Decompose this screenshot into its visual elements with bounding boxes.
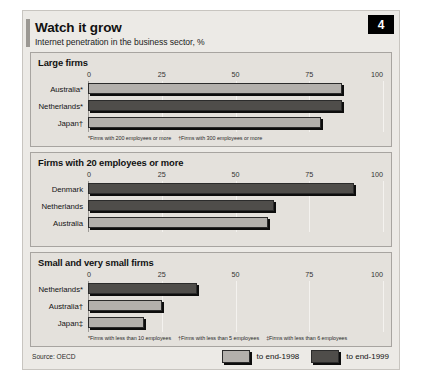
grid-area: Australia*Netherlands*Japan† [88,81,383,132]
bar-track [88,98,383,115]
bar-row: Netherlands* [31,281,383,298]
legend-item: to end-1998 [222,350,300,363]
bar-rows: DenmarkNetherlandsAustralia [88,181,383,232]
bar [88,183,354,194]
legend-swatch [222,350,250,363]
bar [88,200,274,211]
bar-category-label: Denmark [31,185,88,194]
bar-track [88,81,383,98]
figure-number-badge: 4 [368,15,394,34]
grid-area: DenmarkNetherlandsAustralia [88,181,383,232]
axis-tick-label: 100 [371,170,383,179]
chart-footer: Source: OECD to end-1998to end-1999 [23,343,399,369]
axis-tick-label: 25 [158,170,166,179]
x-axis: 0255075100 [88,270,383,281]
source-label: Source: OECD [32,353,76,360]
page-title: Watch it grow [35,20,389,35]
gridline [383,181,384,232]
panel-title: Firms with 20 employees or more [31,153,391,170]
bar [88,217,268,228]
plot-area: 0255075100Netherlands*Australia†Japan‡*F… [31,270,391,346]
bar-row: Netherlands [31,198,383,215]
x-axis: 0255075100 [88,70,383,81]
panel-title: Small and very small firms [31,253,391,270]
grid-area: Netherlands*Australia†Japan‡ [88,281,383,332]
bar-row: Denmark [31,181,383,198]
footnote: *Firms with 200 employees or more [88,135,171,141]
axis-tick-label: 25 [158,270,166,279]
bar-track [88,281,383,298]
bar-category-label: Japan† [31,119,88,128]
axis-tick-label: 75 [305,270,313,279]
chart-panel: Small and very small firms0255075100Neth… [30,252,392,347]
legend-item: to end-1999 [311,350,389,363]
bar [88,300,162,311]
bar [88,83,342,94]
bar-row: Japan† [31,115,383,132]
footnote: *Firms with less than 10 employees [88,335,171,341]
bar-track [88,115,383,132]
axis-tick-label: 100 [371,270,383,279]
gridline [383,81,384,132]
axis-tick-label: 100 [371,70,383,79]
footnote: †Firms with 300 employees or more [178,135,262,141]
panel-footnotes: *Firms with 200 employees or more†Firms … [88,132,383,146]
chart-legend: to end-1998to end-1999 [222,350,389,363]
bar-category-label: Australia† [31,302,88,311]
footnote: ‡Firms with less than 6 employees [266,335,347,341]
chart-header: Watch it grow Internet penetration in th… [23,11,399,52]
legend-swatch [311,350,339,363]
bar-track [88,298,383,315]
bar-category-label: Australia* [31,85,88,94]
axis-tick-label: 75 [305,70,313,79]
chart-figure: Watch it grow Internet penetration in th… [22,10,400,370]
panel-footnotes [88,232,383,246]
bar-row: Japan‡ [31,315,383,332]
bar-row: Australia* [31,81,383,98]
bar-track [88,198,383,215]
panel-title: Large firms [31,53,391,70]
axis-tick-label: 50 [232,270,240,279]
axis-tick-label: 75 [305,170,313,179]
bar-rows: Netherlands*Australia†Japan‡ [88,281,383,332]
bar [88,117,321,128]
bar-category-label: Australia [31,219,88,228]
bar-track [88,181,383,198]
x-axis: 0255075100 [88,170,383,181]
panel-list: Large firms0255075100Australia*Netherlan… [23,52,399,347]
bar-row: Australia† [31,298,383,315]
plot-area: 0255075100DenmarkNetherlandsAustralia [31,170,391,246]
bar-category-label: Netherlands* [31,102,88,111]
axis-tick-label: 50 [232,70,240,79]
chart-panel: Large firms0255075100Australia*Netherlan… [30,52,392,147]
axis-tick-label: 0 [87,70,91,79]
bar-category-label: Netherlands* [31,285,88,294]
bar [88,100,342,111]
legend-label: to end-1999 [346,352,389,361]
bar-category-label: Netherlands [31,202,88,211]
plot-area: 0255075100Australia*Netherlands*Japan†*F… [31,70,391,146]
bar [88,283,197,294]
gridline [383,281,384,332]
axis-tick-label: 25 [158,70,166,79]
legend-label: to end-1998 [257,352,300,361]
bar-track [88,315,383,332]
bar-rows: Australia*Netherlands*Japan† [88,81,383,132]
axis-tick-label: 0 [87,170,91,179]
bar-row: Australia [31,215,383,232]
bar [88,317,144,328]
chart-panel: Firms with 20 employees or more025507510… [30,152,392,247]
chart-subtitle: Internet penetration in the business sec… [35,37,389,48]
bar-category-label: Japan‡ [31,319,88,328]
bar-track [88,215,383,232]
axis-tick-label: 0 [87,270,91,279]
axis-tick-label: 50 [232,170,240,179]
bar-row: Netherlands* [31,98,383,115]
footnote: †Firms with less than 5 employees [178,335,259,341]
